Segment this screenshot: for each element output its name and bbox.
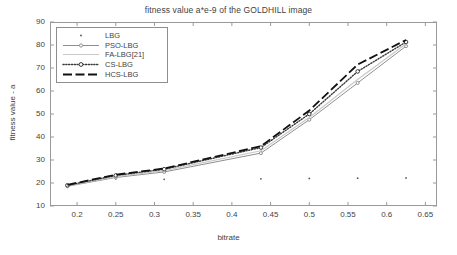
- y-axis-label: fitness value - a: [8, 58, 17, 168]
- y-tick-label: 90: [19, 17, 45, 26]
- legend-label: LBG: [101, 31, 120, 40]
- x-tick-label: 0.45: [254, 210, 288, 219]
- x-tick-label: 0.4: [215, 210, 249, 219]
- legend-swatch-icon: [61, 41, 101, 50]
- y-tick-label: 10: [19, 201, 45, 210]
- y-tick-label: 70: [19, 63, 45, 72]
- y-tick-label: 60: [19, 86, 45, 95]
- legend-label: FA-LBG[21]: [101, 50, 144, 59]
- legend-item-pso-lbg[interactable]: PSO-LBG: [61, 41, 163, 51]
- legend-swatch-icon: [61, 50, 101, 59]
- y-tick-label: 30: [19, 155, 45, 164]
- x-tick-label: 0.55: [331, 210, 365, 219]
- x-tick-label: 0.25: [99, 210, 133, 219]
- y-tick-label: 50: [19, 109, 45, 118]
- legend-item-fa-lbg-21-[interactable]: FA-LBG[21]: [61, 50, 163, 60]
- x-tick-label: 0.35: [176, 210, 210, 219]
- x-tick-label: 0.6: [370, 210, 404, 219]
- legend-label: CS-LBG: [101, 60, 133, 69]
- y-tick-label: 80: [19, 40, 45, 49]
- legend-label: PSO-LBG: [101, 41, 138, 50]
- chart-legend: LBGPSO-LBGFA-LBG[21]CS-LBGHCS-LBG: [56, 27, 168, 83]
- legend-swatch-icon: [61, 31, 101, 40]
- series-lbg: [67, 177, 407, 187]
- legend-swatch-icon: [61, 70, 101, 79]
- y-tick-label: 40: [19, 132, 45, 141]
- x-axis-label: bitrate: [0, 233, 457, 242]
- legend-label: HCS-LBG: [101, 70, 138, 79]
- legend-item-cs-lbg[interactable]: CS-LBG: [61, 60, 163, 70]
- x-tick-label: 0.2: [60, 210, 94, 219]
- legend-item-hcs-lbg[interactable]: HCS-LBG: [61, 69, 163, 79]
- legend-item-lbg[interactable]: LBG: [61, 31, 163, 41]
- y-tick-label: 20: [19, 178, 45, 187]
- x-tick-label: 0.3: [137, 210, 171, 219]
- x-tick-label: 0.65: [408, 210, 442, 219]
- x-tick-label: 0.5: [292, 210, 326, 219]
- chart-figure: fitness value a*e-9 of the GOLDHILL imag…: [0, 0, 457, 255]
- legend-swatch-icon: [61, 60, 101, 69]
